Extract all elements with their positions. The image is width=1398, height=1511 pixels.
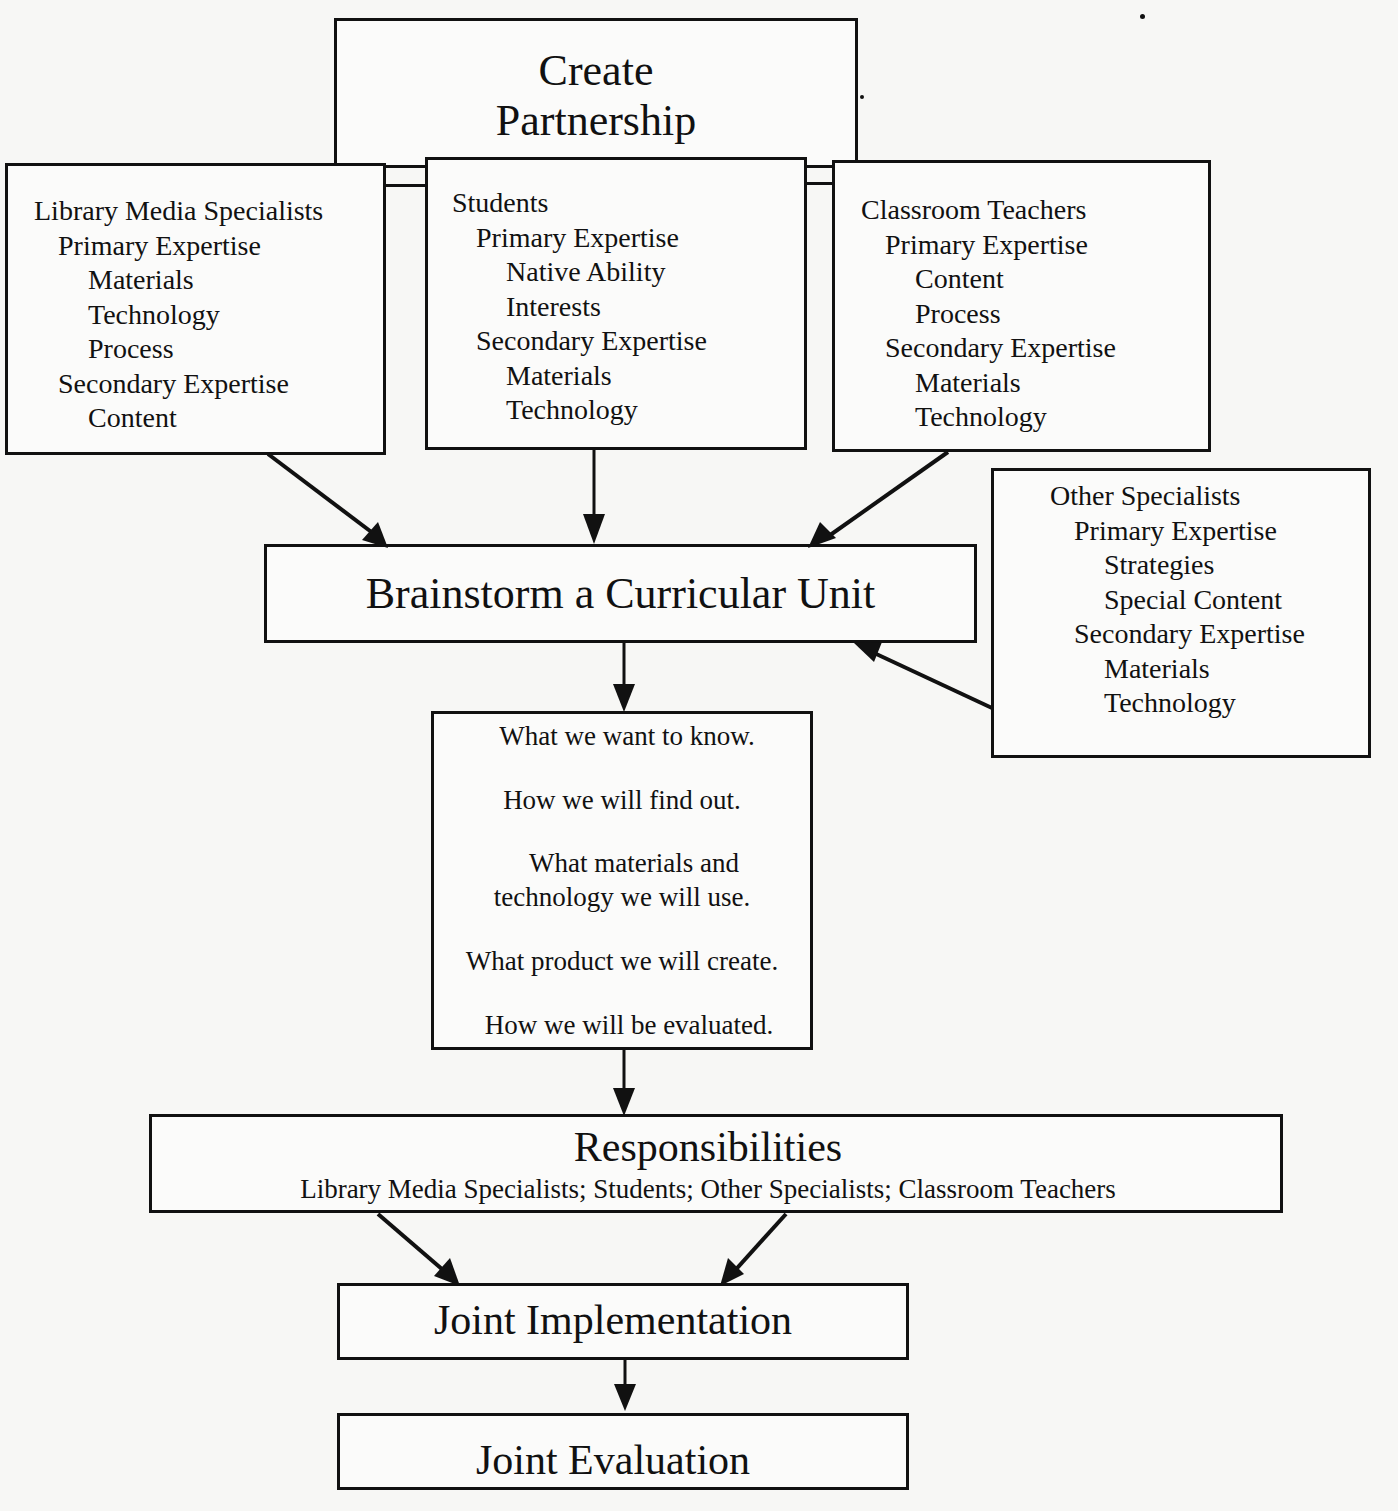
arrow-lms-to-brainstorm — [268, 454, 382, 540]
question-materials-line1: What materials and — [434, 847, 810, 879]
arrowhead-icon — [583, 514, 605, 544]
brainstorm-box: Brainstorm a Curricular Unit — [264, 544, 977, 643]
secondary-expertise-label: Secondary Expertise — [1050, 617, 1305, 652]
questions-box: What we want to know. How we will find o… — [431, 711, 813, 1050]
expertise-item: Technology — [452, 393, 707, 428]
arrow-responsibilities-to-implementation-left — [378, 1214, 450, 1276]
expertise-item: Technology — [34, 298, 323, 333]
students-list: Students Primary Expertise Native Abilit… — [452, 186, 707, 428]
classroom-teachers-list: Classroom Teachers Primary Expertise Con… — [861, 193, 1116, 435]
connector-students-teachers — [804, 182, 834, 185]
expertise-item: Materials — [861, 366, 1116, 401]
responsibilities-box: Responsibilities Library Media Specialis… — [149, 1114, 1283, 1213]
secondary-expertise-label: Secondary Expertise — [452, 324, 707, 359]
joint-implementation-box: Joint Implementation — [337, 1283, 909, 1360]
arrowhead-icon — [614, 1384, 636, 1411]
other-specialists-box: Other Specialists Primary Expertise Stra… — [991, 468, 1371, 758]
library-media-specialists-box: Library Media Specialists Primary Expert… — [5, 163, 386, 455]
expertise-item: Strategies — [1050, 548, 1305, 583]
arrow-teachers-to-brainstorm — [826, 452, 948, 538]
expertise-item: Technology — [1050, 686, 1305, 721]
primary-expertise-label: Primary Expertise — [1050, 514, 1305, 549]
group-title: Classroom Teachers — [861, 193, 1116, 228]
expertise-item: Content — [861, 262, 1116, 297]
arrowhead-icon — [854, 642, 882, 662]
expertise-item: Materials — [34, 263, 323, 298]
create-partnership-line1: Create — [337, 47, 855, 95]
primary-expertise-label: Primary Expertise — [861, 228, 1116, 263]
secondary-expertise-label: Secondary Expertise — [861, 331, 1116, 366]
arrowhead-icon — [613, 1088, 635, 1116]
group-title: Other Specialists — [1050, 479, 1305, 514]
joint-implementation-label: Joint Implementation — [340, 1296, 906, 1344]
create-partnership-box: Create Partnership — [334, 18, 858, 168]
group-title: Students — [452, 186, 707, 221]
expertise-item: Process — [34, 332, 323, 367]
question-want-to-know: What we want to know. — [434, 720, 810, 752]
arrowhead-icon — [613, 684, 635, 712]
library-media-specialists-list: Library Media Specialists Primary Expert… — [34, 194, 323, 436]
responsibilities-subtitle: Library Media Specialists; Students; Oth… — [152, 1173, 1280, 1205]
expertise-item: Materials — [1050, 652, 1305, 687]
responsibilities-title: Responsibilities — [152, 1123, 1280, 1171]
joint-evaluation-label: Joint Evaluation — [340, 1436, 906, 1484]
secondary-expertise-label: Secondary Expertise — [34, 367, 323, 402]
other-specialists-list: Other Specialists Primary Expertise Stra… — [1050, 479, 1305, 721]
scan-speck — [860, 95, 864, 99]
students-box: Students Primary Expertise Native Abilit… — [425, 157, 807, 450]
connector-lms-students — [383, 184, 427, 187]
primary-expertise-label: Primary Expertise — [452, 221, 707, 256]
expertise-item: Materials — [452, 359, 707, 394]
primary-expertise-label: Primary Expertise — [34, 229, 323, 264]
expertise-item: Special Content — [1050, 583, 1305, 618]
expertise-item: Native Ability — [452, 255, 707, 290]
expertise-item: Content — [34, 401, 323, 436]
group-title: Library Media Specialists — [34, 194, 323, 229]
brainstorm-label: Brainstorm a Curricular Unit — [267, 569, 974, 619]
arrow-responsibilities-to-implementation-right — [730, 1214, 786, 1276]
arrowhead-icon — [434, 1258, 460, 1286]
expertise-item: Process — [861, 297, 1116, 332]
arrow-other-to-brainstorm — [872, 652, 992, 708]
question-evaluated: How we will be evaluated. — [434, 1009, 810, 1041]
joint-evaluation-box: Joint Evaluation — [337, 1413, 909, 1490]
arrowhead-icon — [720, 1258, 744, 1286]
expertise-item: Interests — [452, 290, 707, 325]
classroom-teachers-box: Classroom Teachers Primary Expertise Con… — [832, 160, 1211, 452]
question-find-out: How we will find out. — [434, 784, 810, 816]
expertise-item: Technology — [861, 400, 1116, 435]
question-materials-line2: technology we will use. — [434, 881, 810, 913]
create-partnership-line2: Partnership — [337, 97, 855, 145]
scan-speck — [1140, 14, 1145, 19]
question-product: What product we will create. — [434, 945, 810, 977]
